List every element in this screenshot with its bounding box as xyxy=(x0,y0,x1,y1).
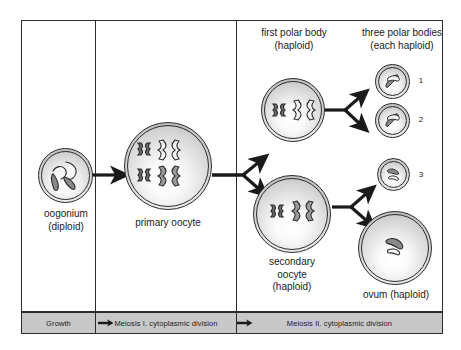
chromosomes-oogonium xyxy=(38,148,93,203)
phase-arrow-meiosis1-to-meiosis2 xyxy=(237,319,253,328)
label-primary-oocyte: primary oocyte xyxy=(118,217,218,230)
chromosomes-ovum xyxy=(358,211,432,285)
oogenesis-diagram: oogonium (diploid) xyxy=(0,0,461,350)
label-first-polar-body-line1: first polar body xyxy=(240,27,348,40)
label-three-polar-bodies-line2: (each haploid) xyxy=(346,40,458,53)
cell-ovum xyxy=(358,211,432,285)
label-secondary-oocyte: secondary oocyte (haploid) xyxy=(242,256,342,294)
label-polar-body-2-number: 2 xyxy=(415,115,427,125)
label-secondary-oocyte-line3: (haploid) xyxy=(242,281,342,294)
chromosomes-secondary-oocyte xyxy=(253,175,331,253)
chromosomes-polar-body-2 xyxy=(375,103,410,138)
label-three-polar-bodies-line1: three polar bodies xyxy=(346,27,458,40)
chromosomes-primary-oocyte xyxy=(124,122,212,210)
label-secondary-oocyte-line1: secondary xyxy=(242,256,342,269)
phase-label-growth: Growth xyxy=(46,319,71,328)
label-three-polar-bodies: three polar bodies (each haploid) xyxy=(346,27,458,52)
cell-primary-oocyte xyxy=(124,122,212,210)
phase-bar: Growth Meiosis I. cytoplasmic division M… xyxy=(21,312,443,334)
cell-polar-body-3 xyxy=(377,158,410,191)
chromosomes-polar-body-3 xyxy=(377,158,410,191)
phase-label-meiosis-1: Meiosis I. cytoplasmic division xyxy=(114,319,217,328)
label-ovum-line1: ovum (haploid) xyxy=(348,289,444,302)
phase-cell-meiosis-1: Meiosis I. cytoplasmic division xyxy=(96,313,237,333)
phase-cell-growth: Growth xyxy=(22,313,96,333)
cell-polar-body-1 xyxy=(375,64,410,99)
label-polar-body-3-number: 3 xyxy=(415,170,427,180)
phase-label-meiosis-2: Meiosis II. cytoplasmic division xyxy=(287,319,392,328)
label-polar-body-1-number: 1 xyxy=(415,76,427,86)
chromosomes-first-polar-body xyxy=(261,78,325,142)
phase-arrow-growth-to-meiosis1 xyxy=(98,319,114,328)
chromosomes-polar-body-1 xyxy=(375,64,410,99)
column-divider-meiosis1-meiosis2 xyxy=(236,20,237,312)
cell-secondary-oocyte xyxy=(253,175,331,253)
column-divider-growth-meiosis1 xyxy=(95,20,96,312)
label-first-polar-body: first polar body (haploid) xyxy=(240,27,348,52)
label-oogonium: oogonium (diploid) xyxy=(26,208,106,233)
label-first-polar-body-line2: (haploid) xyxy=(240,40,348,53)
label-secondary-oocyte-line2: oocyte xyxy=(242,269,342,282)
cell-oogonium xyxy=(38,148,93,203)
phase-cell-meiosis-2: Meiosis II. cytoplasmic division xyxy=(237,313,442,333)
cell-first-polar-body xyxy=(261,78,325,142)
label-ovum: ovum (haploid) xyxy=(348,289,444,302)
label-oogonium-line1: oogonium xyxy=(26,208,106,221)
label-primary-oocyte-line1: primary oocyte xyxy=(118,217,218,230)
cell-polar-body-2 xyxy=(375,103,410,138)
label-oogonium-line2: (diploid) xyxy=(26,221,106,234)
